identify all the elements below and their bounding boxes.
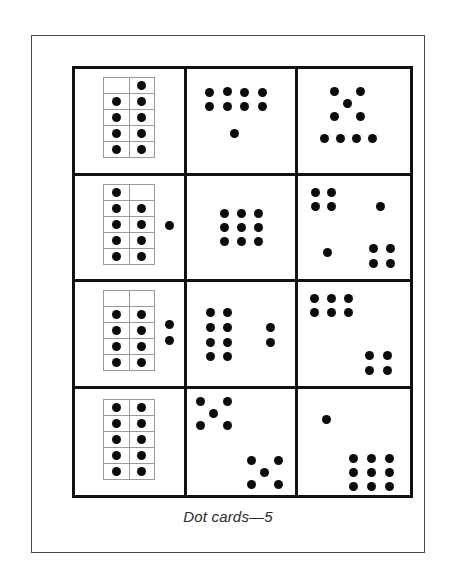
dot: [356, 87, 365, 96]
dot-cards-page: Dot cards—5: [0, 0, 456, 579]
dot: [223, 87, 232, 96]
dot: [266, 323, 275, 332]
dot: [258, 102, 267, 111]
dot: [209, 409, 218, 418]
dot: [367, 482, 376, 491]
ten-frame-cell: [130, 94, 156, 110]
ten-frame-cell: [130, 78, 156, 94]
dot: [137, 467, 146, 476]
dot: [254, 209, 263, 218]
dot-card[interactable]: [298, 389, 410, 496]
dot: [112, 467, 121, 476]
dot: [386, 244, 395, 253]
dot: [237, 237, 246, 246]
dot: [352, 134, 361, 143]
dot: [220, 237, 229, 246]
dot-card[interactable]: [187, 389, 299, 496]
dot: [323, 248, 332, 257]
dot-card[interactable]: [187, 176, 299, 283]
dot: [165, 320, 174, 329]
ten-frame-cell: [130, 185, 156, 201]
dot: [369, 244, 378, 253]
dot: [137, 220, 146, 229]
dot-card[interactable]: [187, 282, 299, 389]
ten-frame-cell: [130, 355, 156, 371]
dot-card[interactable]: [298, 176, 410, 283]
ten-frame-cell: [104, 201, 130, 217]
ten-frame-cell: [104, 78, 130, 94]
dot: [112, 97, 121, 106]
ten-frame-cell: [104, 339, 130, 355]
dot: [137, 97, 146, 106]
dot: [137, 252, 146, 261]
dot: [367, 468, 376, 477]
dot: [327, 308, 336, 317]
dot: [349, 454, 358, 463]
dot: [137, 403, 146, 412]
dot: [196, 397, 205, 406]
ten-frame-cell: [130, 464, 156, 480]
dot: [274, 456, 283, 465]
ten-frame-cell: [130, 448, 156, 464]
dot: [230, 129, 239, 138]
dot: [137, 204, 146, 213]
dot: [369, 259, 378, 268]
ten-frame: [103, 77, 155, 158]
dot: [137, 358, 146, 367]
dot: [365, 366, 374, 375]
dot: [327, 202, 336, 211]
dot-card[interactable]: [75, 389, 187, 496]
dot: [336, 134, 345, 143]
dot: [254, 237, 263, 246]
ten-frame-cell: [104, 185, 130, 201]
dot: [196, 421, 205, 430]
ten-frame-cell: [104, 355, 130, 371]
ten-frame-cell: [104, 110, 130, 126]
dot: [137, 129, 146, 138]
dot: [223, 308, 232, 317]
dot: [137, 145, 146, 154]
dot: [112, 451, 121, 460]
dot: [368, 134, 377, 143]
dot: [205, 88, 214, 97]
dot: [112, 403, 121, 412]
ten-frame-cell: [130, 233, 156, 249]
page-caption: Dot cards—5: [31, 508, 425, 525]
ten-frame-cell: [104, 432, 130, 448]
ten-frame-cell: [104, 233, 130, 249]
dot: [137, 435, 146, 444]
dot: [112, 129, 121, 138]
dot: [137, 310, 146, 319]
ten-frame-cell: [104, 448, 130, 464]
dot: [247, 480, 256, 489]
ten-frame-cell: [104, 307, 130, 323]
dot: [343, 99, 352, 108]
dot: [206, 338, 215, 347]
dot-card[interactable]: [298, 282, 410, 389]
dot-card[interactable]: [187, 69, 299, 176]
dot: [344, 294, 353, 303]
dot-card[interactable]: [75, 176, 187, 283]
dot: [223, 323, 232, 332]
dot: [223, 102, 232, 111]
ten-frame-cell: [104, 217, 130, 233]
dot: [206, 308, 215, 317]
dot: [112, 435, 121, 444]
dot: [330, 87, 339, 96]
ten-frame-cell: [130, 217, 156, 233]
ten-frame-cell: [130, 307, 156, 323]
ten-frame-cell: [104, 323, 130, 339]
dot-card[interactable]: [75, 69, 187, 176]
dot: [220, 209, 229, 218]
dot: [205, 102, 214, 111]
dot: [310, 294, 319, 303]
dot: [112, 326, 121, 335]
dot: [112, 310, 121, 319]
dot: [112, 358, 121, 367]
dot: [137, 113, 146, 122]
dot-card[interactable]: [75, 282, 187, 389]
dot-card[interactable]: [298, 69, 410, 176]
ten-frame-cell: [104, 142, 130, 158]
ten-frame-cell: [104, 249, 130, 265]
ten-frame: [103, 290, 155, 371]
